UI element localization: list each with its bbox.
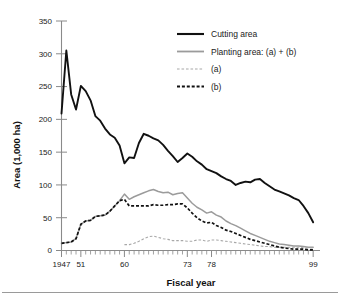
y-tick-label: 150 (39, 148, 53, 157)
x-axis-title: Fiscal year (166, 277, 215, 288)
legend-label-cutting-area: Cutting area (211, 29, 258, 39)
y-tick-label: 100 (39, 181, 53, 190)
legend-label-a: (a) (211, 64, 222, 74)
x-axis-ticks: 19475160737899 (53, 251, 319, 269)
y-tick-label: 200 (39, 115, 53, 124)
x-tick-label: 99 (309, 260, 318, 269)
legend-label-planting-area: Planting area: (a) + (b) (211, 47, 296, 57)
x-tick-label: 1947 (53, 260, 71, 269)
series-line-a (124, 236, 313, 248)
y-axis-ticks: 050100150200250300350 (39, 17, 67, 256)
chart-legend: Cutting areaPlanting area: (a) + (b)(a)(… (177, 29, 296, 91)
y-tick-label: 300 (39, 50, 53, 59)
line-chart: 050100150200250300350 19475160737899 Are… (0, 0, 340, 295)
y-tick-label: 0 (48, 246, 53, 255)
y-tick-label: 250 (39, 82, 53, 91)
data-series-layer (62, 51, 314, 250)
figure-container: 050100150200250300350 19475160737899 Are… (0, 0, 340, 295)
x-tick-label: 73 (183, 260, 192, 269)
y-axis-title: Area (1,000 ha) (11, 121, 22, 189)
x-tick-label: 78 (207, 260, 216, 269)
x-tick-label: 60 (120, 260, 129, 269)
series-line-cutting-area (62, 51, 314, 223)
series-line-planting-area (62, 190, 314, 248)
y-tick-label: 350 (39, 17, 53, 26)
x-tick-label: 51 (76, 260, 85, 269)
legend-label-b: (b) (211, 82, 222, 92)
y-tick-label: 50 (43, 214, 52, 223)
